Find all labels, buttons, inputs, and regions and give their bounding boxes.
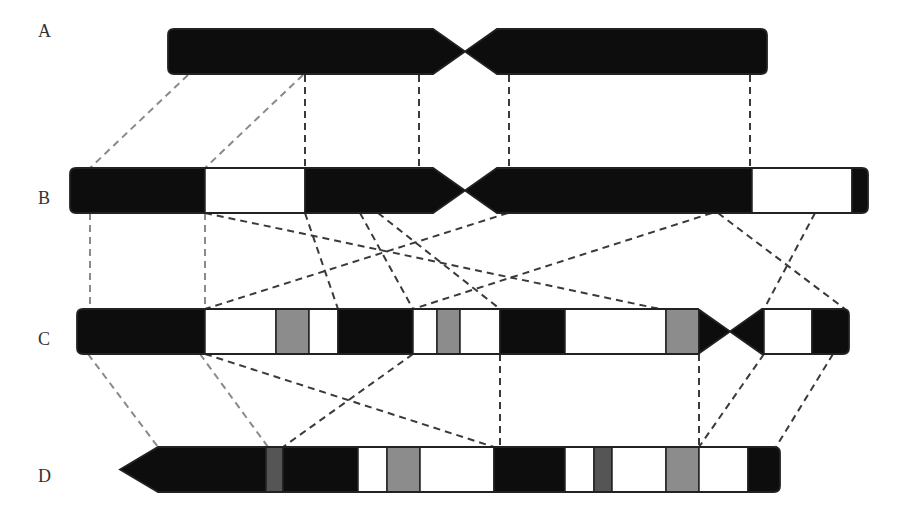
connector-line [764,213,815,309]
band-white [764,307,812,356]
connector-line [88,354,158,447]
band-black [168,27,767,76]
chromosome-a [168,27,767,76]
band-black [748,445,780,494]
band-gray [666,445,699,494]
band-white [205,307,276,356]
chromosomes [70,27,868,494]
band-white [612,445,666,494]
connector-line [205,213,660,309]
band-white [420,445,494,494]
row-label-a: A [38,21,51,42]
connector-line [305,213,338,309]
band-gray [666,307,699,356]
row-label-d: D [38,466,51,487]
chromosome-diagram [0,0,899,512]
connector-lines [88,75,845,447]
band-white [699,445,748,494]
chromosome-c [77,307,849,356]
connector-line [90,75,188,168]
band-black [283,445,358,494]
connector-line [718,213,845,309]
connector-line [776,354,833,447]
band-black [494,445,565,494]
band-white [413,307,437,356]
band-gray [387,445,420,494]
band-black [500,307,565,356]
row-label-b: B [38,188,50,209]
band-darkgray [594,445,612,494]
band-white [358,445,387,494]
band-black [852,166,868,215]
band-darkgray [266,445,283,494]
connector-line [360,213,413,309]
band-gray [276,307,309,356]
band-white [205,166,305,215]
connector-line [205,213,508,309]
band-white [309,307,338,356]
band-black [812,307,849,356]
connector-line [205,75,303,168]
connector-line [378,213,500,309]
band-gray [437,307,460,356]
connector-line [200,354,268,447]
band-white [565,307,666,356]
band-white [565,445,594,494]
band-white [752,166,852,215]
chromosome-d [120,445,780,494]
connector-line [699,354,764,447]
band-black [120,445,266,494]
band-black [305,166,752,215]
band-black [77,307,205,356]
row-label-c: C [38,329,50,350]
chromosome-b [70,166,868,215]
band-black [338,307,413,356]
band-black [70,166,205,215]
band-white [460,307,500,356]
connector-line [413,213,712,309]
